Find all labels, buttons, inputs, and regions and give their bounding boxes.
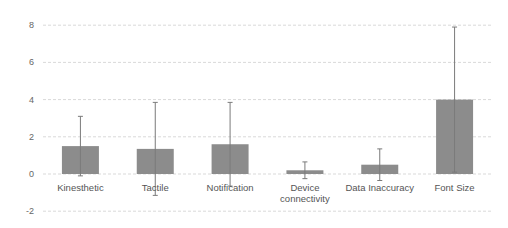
y-axis-ticks: -202468 xyxy=(26,20,34,216)
category-label: connectivity xyxy=(280,193,330,204)
category-label: Notification xyxy=(207,182,254,193)
y-tick-label: 8 xyxy=(29,20,34,30)
bar-chart: -202468 KinestheticTactileNotificationDe… xyxy=(0,0,508,228)
error-bars xyxy=(78,27,457,195)
category-label: Data Inaccuracy xyxy=(345,182,414,193)
category-label: Tactile xyxy=(142,182,169,193)
y-tick-label: 4 xyxy=(29,95,34,105)
y-tick-label: -2 xyxy=(26,206,34,216)
y-tick-label: 6 xyxy=(29,57,34,67)
category-label: Kinesthetic xyxy=(57,182,104,193)
category-labels: KinestheticTactileNotificationDeviceconn… xyxy=(57,182,474,204)
category-label: Device xyxy=(290,182,319,193)
gridlines xyxy=(43,25,492,211)
category-label: Font Size xyxy=(435,182,475,193)
y-tick-label: 0 xyxy=(29,169,34,179)
y-tick-label: 2 xyxy=(29,132,34,142)
